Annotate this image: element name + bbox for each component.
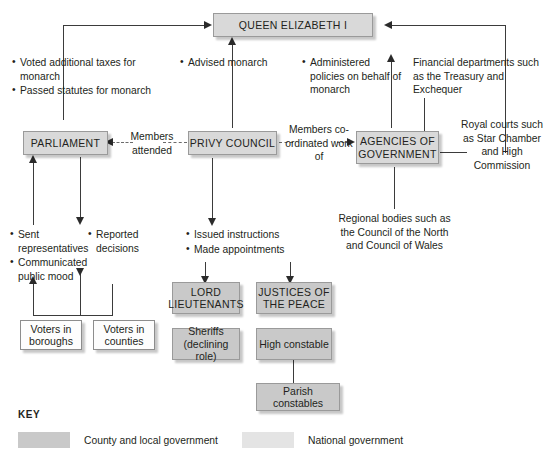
node-privy-council[interactable]: PRIVY COUNCIL — [188, 131, 277, 155]
arrowhead-parliament-to-voters — [76, 217, 84, 225]
arrowhead-privy-down — [208, 218, 216, 226]
arrowhead-voters-to-parliament — [29, 155, 37, 163]
connector-voters-parliament-vert — [33, 163, 34, 225]
node-parliament-label: PARLIAMENT — [31, 137, 100, 149]
key-title: KEY — [18, 409, 40, 420]
node-voters-boroughs-label: Voters in boroughs — [21, 323, 81, 348]
node-parish-constables[interactable]: Parish constables — [256, 383, 340, 411]
annotation-financial-departments: Financial departments such as the Treasu… — [413, 56, 541, 97]
label-members-coordinated: Members co-ordinated work of — [283, 123, 355, 164]
annotation-item: Passed statutes for monarch — [12, 84, 177, 98]
node-high-constable[interactable]: High constable — [256, 328, 332, 360]
connector-voters-bracket-horz — [33, 315, 113, 316]
annotation-privy-to-queen: Advised monarch — [180, 56, 290, 71]
node-queen-label: QUEEN ELIZABETH I — [239, 19, 347, 31]
arrowhead-to-queen-right — [384, 21, 392, 29]
annotation-parliament-to-queen: Voted additional taxes for monarch Passe… — [12, 56, 177, 99]
node-sheriffs-label: Sheriffs (declining role) — [173, 325, 239, 362]
node-voters-counties[interactable]: Voters in counties — [93, 320, 155, 350]
node-privy-council-label: PRIVY COUNCIL — [190, 137, 275, 149]
annotation-item: Reported decisions — [88, 228, 158, 255]
annotation-item: Advised monarch — [180, 56, 290, 70]
key-label-national: National government — [308, 435, 403, 446]
connector-high-to-parish — [293, 360, 294, 384]
node-agencies-label: AGENCIES OF GOVERNMENT — [357, 135, 438, 160]
key-swatch-county-local — [18, 432, 70, 448]
connector-privy-down-vert — [212, 158, 213, 220]
connector-voters-bracket-left — [33, 284, 34, 315]
annotation-item: Sent representatives — [10, 228, 90, 255]
annotation-royal-courts: Royal courts such as Star Chamber and Hi… — [459, 118, 545, 173]
label-members-attended: Members attended — [120, 130, 184, 157]
connector-voters-bracket-right — [112, 284, 113, 316]
annotation-privy-downward: Issued instructions Made appointments — [186, 228, 316, 257]
node-queen-elizabeth[interactable]: QUEEN ELIZABETH I — [213, 13, 373, 37]
annotation-item: Administered policies on behalf of monar… — [302, 56, 406, 97]
arrowhead-to-queen-left — [204, 21, 212, 29]
node-sheriffs[interactable]: Sheriffs (declining role) — [172, 328, 240, 360]
node-justices-label: JUSTICES OF THE PEACE — [257, 286, 331, 311]
annotation-agencies-to-queen: Administered policies on behalf of monar… — [302, 56, 406, 98]
connector-agencies-queen-horz — [392, 25, 506, 26]
annotation-voters-to-parliament: Sent representatives Communicated public… — [10, 228, 90, 285]
node-justices-of-the-peace[interactable]: JUSTICES OF THE PEACE — [256, 282, 332, 314]
annotation-parliament-to-voters: Reported decisions — [88, 228, 158, 256]
connector-parliament-queen-horz — [63, 25, 204, 26]
node-parliament[interactable]: PARLIAMENT — [23, 131, 108, 155]
node-lord-lieutenants-label: LORD LIEUTENANTS — [168, 286, 244, 311]
connector-parliament-voters-vert — [80, 157, 81, 217]
annotation-regional-bodies: Regional bodies such as the Council of t… — [337, 212, 452, 253]
node-agencies-of-government[interactable]: AGENCIES OF GOVERNMENT — [356, 131, 439, 164]
annotation-item: Voted additional taxes for monarch — [12, 56, 177, 83]
annotation-item: Made appointments — [186, 243, 316, 257]
node-voters-boroughs[interactable]: Voters in boroughs — [20, 320, 82, 350]
key-swatch-national — [242, 432, 294, 448]
node-high-constable-label: High constable — [259, 338, 328, 350]
arrowhead-privy-to-queen — [228, 37, 236, 45]
diagram-canvas: QUEEN ELIZABETH I Voted additional taxes… — [0, 0, 548, 460]
node-voters-counties-label: Voters in counties — [94, 323, 154, 348]
annotation-item: Communicated public mood — [10, 256, 90, 283]
annotation-item: Issued instructions — [186, 228, 316, 242]
node-lord-lieutenants[interactable]: LORD LIEUTENANTS — [172, 282, 240, 314]
node-parish-constables-label: Parish constables — [257, 385, 339, 410]
key-label-county-local: County and local government — [84, 435, 218, 446]
connector-agencies-regional — [394, 167, 395, 209]
